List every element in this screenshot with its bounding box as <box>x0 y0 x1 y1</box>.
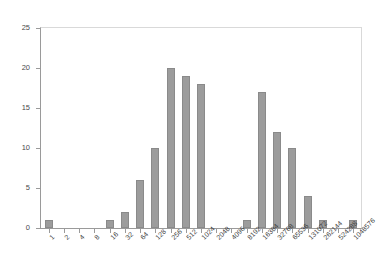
y-axis-tick-label: 10 <box>22 144 30 152</box>
bar <box>106 220 114 228</box>
bar-slot <box>117 28 132 228</box>
y-axis-tick-mark <box>36 188 40 189</box>
bar-slot <box>331 28 346 228</box>
x-axis-tick-label: 2 <box>63 233 71 241</box>
y-axis-tick-mark <box>36 68 40 69</box>
bar <box>136 180 144 228</box>
bar <box>258 92 266 228</box>
y-axis-tick-mark <box>36 228 40 229</box>
bar <box>273 132 281 228</box>
x-axis-tick-mark <box>308 229 309 233</box>
bar <box>45 220 53 228</box>
bar-slot <box>254 28 269 228</box>
y-axis: 0510152025 <box>0 0 36 277</box>
y-axis-tick-mark <box>36 108 40 109</box>
bar-slot <box>87 28 102 228</box>
bar-slot <box>41 28 56 228</box>
bar <box>121 212 129 228</box>
bar-slot <box>209 28 224 228</box>
bar <box>167 68 175 228</box>
bar-slot <box>132 28 147 228</box>
y-axis-tick-label: 0 <box>26 224 30 232</box>
y-axis-tick-mark <box>36 148 40 149</box>
bar-slot <box>224 28 239 228</box>
bar-slot <box>102 28 117 228</box>
bar-slot <box>193 28 208 228</box>
y-axis-tick-mark <box>36 28 40 29</box>
y-axis-tick-label: 20 <box>22 64 30 72</box>
bar-slot <box>346 28 361 228</box>
y-axis-tick-label: 25 <box>22 24 30 32</box>
x-axis-tick-mark <box>171 229 172 233</box>
bar-slot <box>315 28 330 228</box>
bar <box>151 148 159 228</box>
bar <box>288 148 296 228</box>
y-axis-tick-label: 15 <box>22 104 30 112</box>
x-axis-tick-mark <box>49 229 50 233</box>
bar-slot <box>270 28 285 228</box>
bar-slot <box>56 28 71 228</box>
bar-slot <box>239 28 254 228</box>
bar-slot <box>163 28 178 228</box>
bars-container <box>41 28 361 228</box>
bar-slot <box>178 28 193 228</box>
bar <box>182 76 190 228</box>
y-axis-tick-label: 5 <box>26 184 30 192</box>
bar-slot <box>285 28 300 228</box>
x-axis-tick-label: 4 <box>78 233 86 241</box>
x-axis-tick-label: 1 <box>48 233 56 241</box>
bar-slot <box>71 28 86 228</box>
bar <box>197 84 205 228</box>
x-axis-tick-mark <box>110 229 111 233</box>
x-axis-tick-label: 8 <box>93 233 101 241</box>
bar-slot <box>148 28 163 228</box>
bar-slot <box>300 28 315 228</box>
x-axis-tick-mark <box>247 229 248 233</box>
x-axis-tick-mark <box>186 229 187 233</box>
